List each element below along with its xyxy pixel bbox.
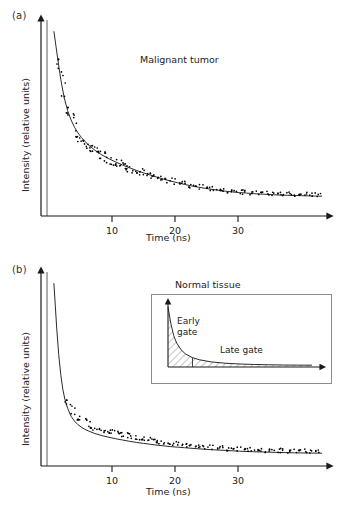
panel-a-y-axis-label: Intensity (relative units) (20, 78, 31, 192)
panel-a-x-ticks (112, 216, 238, 222)
panel-a-label: (a) (12, 10, 27, 21)
inset-panel: Early gate Late gate (151, 294, 332, 384)
panel-a: (a) Intensity (relative units) Malignant… (0, 0, 343, 254)
panel-a-xtick-10: 10 (106, 225, 118, 236)
panel-b-xtick-20: 20 (169, 475, 181, 486)
panel-a-x-axis-label: Time (ns) (146, 232, 191, 243)
panel-b-title: Normal tissue (175, 279, 241, 290)
panel-b: (b) Intensity (relative units) Normal ti… (0, 254, 343, 508)
inset-plot (152, 295, 329, 381)
panel-a-xtick-30: 30 (232, 225, 244, 236)
inset-early-gate-label-line1: Early (177, 316, 200, 327)
panel-b-y-axis-label: Intensity (relative units) (20, 332, 31, 446)
panel-b-data-points (64, 399, 319, 454)
panel-a-title: Malignant tumor (140, 54, 219, 65)
inset-late-gate-label: Late gate (220, 345, 263, 356)
panel-a-data-points (56, 58, 321, 197)
panel-b-xtick-30: 30 (232, 475, 244, 486)
inset-early-gate-label-line2: gate (177, 327, 197, 338)
figure-root: (a) Intensity (relative units) Malignant… (0, 0, 343, 508)
panel-b-label: (b) (12, 264, 27, 275)
panel-b-x-ticks (112, 466, 238, 472)
panel-b-xtick-10: 10 (106, 475, 118, 486)
panel-a-plot: 10 20 30 (0, 0, 343, 254)
panel-b-x-axis-label: Time (ns) (146, 486, 191, 497)
